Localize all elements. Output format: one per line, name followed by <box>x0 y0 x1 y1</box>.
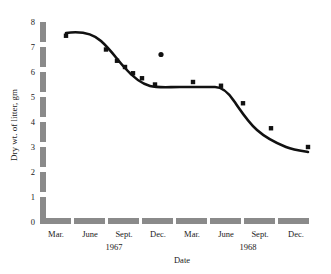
y-axis-segment <box>40 172 46 192</box>
outlier-data-point <box>158 52 163 57</box>
x-tick-label: Mar. <box>48 229 64 239</box>
y-axis-segment <box>40 122 46 142</box>
x-tick-label: Sept. <box>115 229 132 239</box>
outlier-markers <box>158 52 163 57</box>
data-point <box>64 34 68 38</box>
x-tick-label: Dec. <box>288 229 304 239</box>
x-tick-label: Sept. <box>251 229 268 239</box>
y-axis-segment <box>40 22 46 42</box>
data-point <box>104 47 108 51</box>
y-axis-segment <box>40 147 46 167</box>
data-point <box>306 145 310 149</box>
data-point <box>123 65 127 69</box>
data-point <box>140 76 144 80</box>
chart-svg: 8 7 6 5 4 3 2 1 0 Dry wt. of litter, gm … <box>0 0 331 274</box>
data-point <box>131 71 135 75</box>
year-label-1968: 1968 <box>240 242 257 252</box>
x-axis-segment <box>210 218 241 224</box>
x-tick-label: Dec. <box>150 229 166 239</box>
y-axis-segment <box>40 72 46 92</box>
x-axis-title: Date <box>174 255 190 265</box>
x-axis-segment <box>142 218 173 224</box>
y-tick-label: 2 <box>31 167 35 177</box>
x-axis-segment <box>40 218 71 224</box>
y-axis-title: Dry wt. of litter, gm <box>9 89 19 161</box>
chart-figure: 8 7 6 5 4 3 2 1 0 Dry wt. of litter, gm … <box>0 0 331 274</box>
data-point <box>191 80 195 84</box>
y-tick-label: 6 <box>31 67 35 77</box>
y-tick-label: 8 <box>31 17 35 27</box>
x-tick-label: June <box>218 229 234 239</box>
x-tick-label: June <box>82 229 98 239</box>
y-tick-label: 0 <box>31 217 35 227</box>
x-axis-segment <box>244 218 275 224</box>
data-point <box>219 84 223 88</box>
year-label-1967: 1967 <box>106 242 123 252</box>
x-axis-segment <box>176 218 207 224</box>
data-point <box>115 59 119 63</box>
y-axis-segment <box>40 47 46 67</box>
data-point <box>269 126 273 130</box>
x-axis-segment <box>74 218 105 224</box>
y-axis-segment <box>40 197 46 218</box>
y-tick-label: 3 <box>31 142 35 152</box>
data-point <box>241 101 245 105</box>
x-axis-segment <box>278 218 309 224</box>
x-axis-segment <box>108 218 139 224</box>
y-tick-label: 7 <box>31 42 35 52</box>
data-point <box>153 82 157 86</box>
y-axis-segment <box>40 97 46 117</box>
y-tick-label: 5 <box>31 92 35 102</box>
y-tick-label: 1 <box>31 192 35 202</box>
x-tick-label: Mar. <box>184 229 200 239</box>
